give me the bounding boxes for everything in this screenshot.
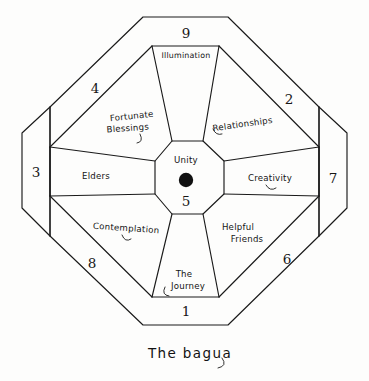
- spoke-left-top: [50, 147, 155, 161]
- corner-line-lower-right: [219, 196, 319, 297]
- spoke-top-left: [152, 46, 172, 141]
- sector-label-helpful: Helpful: [222, 222, 254, 232]
- center-label-unity: Unity: [174, 155, 198, 165]
- sector-label-elders: Elders: [82, 171, 110, 181]
- sector-number-3: 3: [32, 164, 41, 180]
- sector-label-illumination: Illumination: [162, 51, 211, 60]
- sector-label-relationships: Relationships: [212, 115, 274, 133]
- sector-number-1: 1: [182, 303, 191, 319]
- swash-contemplation: [122, 235, 131, 240]
- sector-label-the: The: [175, 269, 193, 279]
- sector-label-contemplation: Contemplation: [93, 221, 160, 236]
- figure-caption: The bagua: [147, 345, 232, 361]
- sector-label-creativity: Creativity: [248, 173, 292, 183]
- corner-line-lower-left: [50, 196, 152, 297]
- sector-number-9: 9: [182, 25, 191, 41]
- spoke-bottom-right: [203, 214, 219, 297]
- center-number: 5: [182, 193, 191, 209]
- sector-number-8: 8: [88, 255, 97, 271]
- spoke-right-bottom: [224, 194, 319, 196]
- swash-journey: [164, 287, 169, 296]
- spoke-right-top: [224, 147, 319, 161]
- bagua-figure: Unity 5 9 Illumination 2 Relationships 7…: [0, 0, 369, 381]
- sector-label-friends: Friends: [231, 234, 264, 244]
- bagua-diagram: Unity 5 9 Illumination 2 Relationships 7…: [0, 0, 369, 381]
- sector-number-6: 6: [283, 251, 292, 267]
- center-dot-marker: [179, 173, 193, 187]
- spoke-left-bottom: [50, 194, 155, 196]
- sector-label-journey: Journey: [170, 281, 205, 291]
- swash-creativity: [266, 185, 276, 189]
- sector-number-4: 4: [91, 80, 100, 96]
- corner-line-upper-right: [219, 46, 319, 147]
- sector-number-2: 2: [285, 91, 294, 107]
- sector-number-7: 7: [329, 170, 338, 186]
- swash-blessings: [137, 134, 141, 143]
- sector-label-blessings: Blessings: [106, 122, 149, 135]
